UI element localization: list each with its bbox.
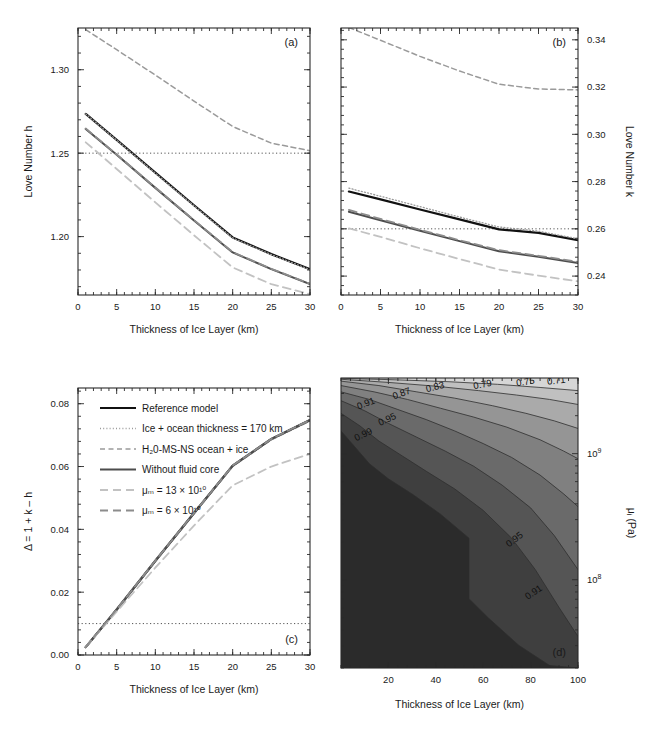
- series-line-6: [86, 128, 310, 283]
- x-tick-label: 10: [150, 661, 161, 672]
- x-axis-title: Thickness of Ice Layer (km): [395, 698, 524, 710]
- series-line-3: [86, 421, 310, 647]
- x-tick-label: 5: [114, 661, 119, 672]
- x-tick-label: 15: [189, 661, 200, 672]
- panel-c-svg: 0510152025300.000.020.040.060.08Thicknes…: [0, 366, 324, 732]
- x-tick-label: 5: [378, 301, 383, 312]
- contour-field: 0.990.950.910.870.830.790.750.710.950.91: [341, 372, 578, 668]
- series-line-4: [86, 129, 310, 284]
- x-tick-label: 20: [227, 661, 238, 672]
- panel-d-svg: 0.990.950.910.870.830.790.750.710.950.91…: [324, 366, 648, 732]
- y-tick-label: 0.30: [587, 129, 606, 140]
- x-axis-title: Thickness of Ice Layer (km): [130, 683, 259, 695]
- panel-tag-a: (a): [285, 36, 298, 48]
- panel-c: 0510152025300.000.020.040.060.08Thicknes…: [0, 366, 324, 732]
- y-tick-label: 1.25: [51, 148, 70, 159]
- x-tick-label: 15: [189, 301, 200, 312]
- y-tick-label: 0.32: [587, 81, 606, 92]
- y-tick-label: 109: [587, 447, 602, 459]
- x-axis: 051015202530: [75, 28, 315, 312]
- y-axis-title: Δ = 1 + k – h: [22, 492, 34, 551]
- x-tick-label: 0: [75, 661, 80, 672]
- legend-label-1: Reference model: [142, 403, 218, 414]
- panel-a-svg: 0510152025301.201.251.30Thickness of Ice…: [0, 0, 324, 366]
- x-axis-title: Thickness of Ice Layer (km): [395, 323, 524, 335]
- panel-tag-c: (c): [285, 633, 298, 645]
- x-tick-label: 25: [266, 301, 277, 312]
- x-tick-label: 10: [415, 301, 426, 312]
- y-tick-label: 0.24: [587, 270, 606, 281]
- legend-label-6: μₘ = 6 × 10¹⁰: [142, 505, 201, 516]
- x-tick-label: 20: [227, 301, 238, 312]
- y-tick-label: 0.04: [51, 524, 70, 535]
- panel-tag-b: (b): [553, 36, 566, 48]
- legend-label-3: H₂0-MS-NS ocean + ice: [142, 444, 249, 455]
- y-tick-label: 1.30: [51, 64, 70, 75]
- y-tick-label: 108: [587, 573, 602, 585]
- series-line-1: [349, 192, 578, 241]
- plot-frame: [341, 28, 578, 295]
- x-tick-label: 100: [570, 674, 586, 685]
- x-tick-label: 40: [431, 674, 442, 685]
- panel-tag-d: (d): [553, 646, 566, 658]
- x-tick-label: 30: [305, 661, 316, 672]
- y-axis-title: Love Number h: [22, 125, 34, 197]
- series-line-5: [86, 454, 310, 647]
- series-line-2: [86, 114, 310, 270]
- panel-a: 0510152025301.201.251.30Thickness of Ice…: [0, 0, 324, 366]
- y-tick-label: 0.26: [587, 223, 606, 234]
- y-tick-label: 0.00: [51, 649, 70, 660]
- x-tick-label: 5: [114, 301, 119, 312]
- x-axis: 051015202530: [338, 28, 583, 312]
- panel-b: 0510152025300.240.260.280.300.320.34Thic…: [324, 0, 648, 366]
- y-axis: 1.201.251.30: [51, 36, 311, 286]
- series-line-2: [349, 188, 578, 239]
- x-tick-label: 30: [305, 301, 316, 312]
- series-line-3: [86, 30, 310, 151]
- x-tick-label: 15: [454, 301, 465, 312]
- y-tick-label: 0.06: [51, 461, 70, 472]
- legend-label-2: Ice + ocean thickness = 170 km: [142, 423, 283, 434]
- legend-label-4: Without fluid core: [142, 464, 220, 475]
- series-line-5: [349, 228, 578, 281]
- panel-b-svg: 0510152025300.240.260.280.300.320.34Thic…: [324, 0, 648, 366]
- figure-root: 0510152025301.201.251.30Thickness of Ice…: [0, 0, 648, 732]
- y-tick-label: 0.28: [587, 176, 606, 187]
- y-tick-label: 0.08: [51, 398, 70, 409]
- legend-label-5: μₘ = 13 × 10¹⁰: [142, 485, 206, 496]
- x-tick-label: 25: [266, 661, 277, 672]
- legend: Reference modelIce + ocean thickness = 1…: [100, 403, 283, 516]
- x-tick-label: 20: [383, 674, 394, 685]
- x-tick-label: 25: [533, 301, 544, 312]
- y-tick-label: 0.02: [51, 587, 70, 598]
- series-line-3: [349, 28, 578, 90]
- x-tick-label: 30: [573, 301, 584, 312]
- y-axis-title: μᵢ (Pa): [626, 508, 638, 538]
- panel-d: 0.990.950.910.870.830.790.750.710.950.91…: [324, 366, 648, 732]
- x-axis-title: Thickness of Ice Layer (km): [130, 323, 259, 335]
- series-line-1: [86, 114, 310, 269]
- x-tick-label: 10: [150, 301, 161, 312]
- x-tick-label: 0: [338, 301, 343, 312]
- x-tick-label: 0: [75, 301, 80, 312]
- x-tick-label: 60: [478, 674, 489, 685]
- x-tick-label: 20: [494, 301, 505, 312]
- y-axis-title: Love Number k: [624, 126, 636, 198]
- x-tick-label: 80: [525, 674, 536, 685]
- y-tick-label: 1.20: [51, 231, 70, 242]
- y-tick-label: 0.34: [587, 34, 606, 45]
- y-axis: 0.240.260.280.300.320.34: [341, 30, 606, 295]
